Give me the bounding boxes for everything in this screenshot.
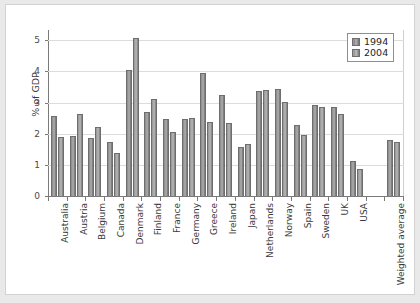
bar <box>133 38 139 196</box>
x-tick-label: USA <box>360 203 369 222</box>
x-tick-label: Greece <box>210 203 219 235</box>
bar <box>58 137 64 196</box>
x-tick-label: Weighted average <box>397 203 406 285</box>
bar <box>245 144 251 196</box>
x-tick-label: Sweden <box>322 203 331 239</box>
bar <box>126 70 132 196</box>
bar <box>163 119 169 196</box>
y-tick-label: 5 <box>26 36 40 45</box>
x-tick-mark <box>347 197 348 201</box>
bar <box>256 91 262 196</box>
bar <box>387 140 393 196</box>
x-tick-mark <box>141 197 142 201</box>
chart-figure: % of GDP 012345 AustraliaAustriaBelgiumC… <box>5 4 415 295</box>
x-tick-label: Ireland <box>229 203 238 234</box>
bar <box>331 107 337 196</box>
y-tick-label: 1 <box>26 161 40 170</box>
x-tick-label: UK <box>341 203 350 216</box>
bar <box>301 135 307 196</box>
bar <box>88 138 94 196</box>
bar <box>51 116 57 196</box>
x-tick-mark <box>366 197 367 201</box>
bar <box>219 95 225 196</box>
x-tick-mark <box>328 197 329 201</box>
bar <box>350 161 356 196</box>
bar <box>170 132 176 196</box>
x-tick-mark <box>197 197 198 201</box>
x-tick-mark <box>48 197 49 201</box>
x-tick-mark <box>123 197 124 201</box>
legend-item-2004: 2004 <box>352 47 388 58</box>
x-tick-label: Australia <box>61 203 70 243</box>
y-tick-label: 0 <box>26 192 40 201</box>
x-tick-label: Netherlands <box>266 203 275 258</box>
y-tick-label: 4 <box>26 67 40 76</box>
bar <box>319 107 325 196</box>
bar <box>114 153 120 196</box>
x-tick-mark <box>216 197 217 201</box>
bar <box>312 105 318 196</box>
x-axis-line <box>48 196 404 197</box>
bar <box>394 142 400 196</box>
bar <box>226 123 232 196</box>
x-tick-label: France <box>173 203 182 233</box>
bar <box>282 102 288 196</box>
bar <box>207 122 213 196</box>
x-tick-mark <box>384 197 385 201</box>
bar <box>182 119 188 196</box>
x-tick-mark <box>85 197 86 201</box>
x-tick-mark <box>160 197 161 201</box>
bar <box>357 169 363 196</box>
bar <box>189 118 195 196</box>
x-tick-mark <box>272 197 273 201</box>
bar <box>238 147 244 196</box>
x-tick-mark <box>67 197 68 201</box>
x-tick-label: Finland <box>154 203 163 235</box>
legend-swatch-1994 <box>352 38 360 46</box>
bar <box>338 114 344 196</box>
x-tick-label: Spain <box>304 203 313 228</box>
legend-label-2004: 2004 <box>364 47 388 58</box>
x-tick-mark <box>310 197 311 201</box>
y-tick-label: 3 <box>26 99 40 108</box>
x-tick-mark <box>104 197 105 201</box>
x-tick-mark <box>235 197 236 201</box>
bar <box>200 73 206 196</box>
x-tick-label: Norway <box>285 203 294 237</box>
plot-right-border <box>403 30 404 197</box>
bar <box>77 114 83 197</box>
legend-item-1994: 1994 <box>352 36 388 47</box>
legend-swatch-2004 <box>352 49 360 57</box>
legend-label-1994: 1994 <box>364 36 388 47</box>
x-tick-mark <box>403 197 404 201</box>
x-tick-label: Denmark <box>136 203 145 244</box>
x-tick-label: Belgium <box>98 203 107 240</box>
x-tick-label: Austria <box>80 203 89 235</box>
x-tick-label: Japan <box>248 203 257 228</box>
x-tick-label: Germany <box>192 203 201 244</box>
bar <box>95 127 101 196</box>
x-tick-label: Canada <box>117 203 126 237</box>
bar <box>294 125 300 196</box>
bar <box>275 89 281 196</box>
bar <box>151 99 157 196</box>
x-tick-mark <box>254 197 255 201</box>
bar <box>70 136 76 196</box>
x-tick-mark <box>291 197 292 201</box>
y-tick-label: 2 <box>26 130 40 139</box>
bar <box>144 112 150 196</box>
bar <box>107 142 113 196</box>
x-tick-mark <box>179 197 180 201</box>
bar <box>263 90 269 196</box>
chart-legend: 1994 2004 <box>347 33 394 62</box>
